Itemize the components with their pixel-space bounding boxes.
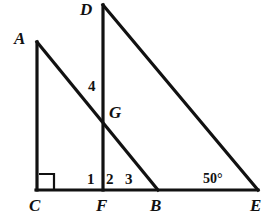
angle-label-E-50deg: 50°: [203, 172, 223, 186]
right-angle-mark-C: [39, 174, 54, 189]
geometry-diagram: A D G C F B E 4 1 2 3 50°: [0, 0, 273, 222]
angle-label-1: 1: [87, 172, 95, 187]
geometry-canvas: [0, 0, 273, 222]
vertex-label-G: G: [109, 104, 121, 121]
vertex-label-C: C: [29, 197, 40, 214]
vertex-label-A: A: [14, 30, 25, 47]
vertex-label-B: B: [150, 197, 161, 214]
vertex-label-D: D: [80, 1, 92, 18]
vertex-label-F: F: [96, 197, 107, 214]
angle-label-2: 2: [106, 172, 114, 187]
vertex-label-E: E: [250, 197, 261, 214]
angle-label-4: 4: [88, 79, 96, 94]
angle-label-3: 3: [125, 172, 133, 187]
segment-DE: [103, 5, 258, 190]
segment-AB: [37, 42, 158, 190]
